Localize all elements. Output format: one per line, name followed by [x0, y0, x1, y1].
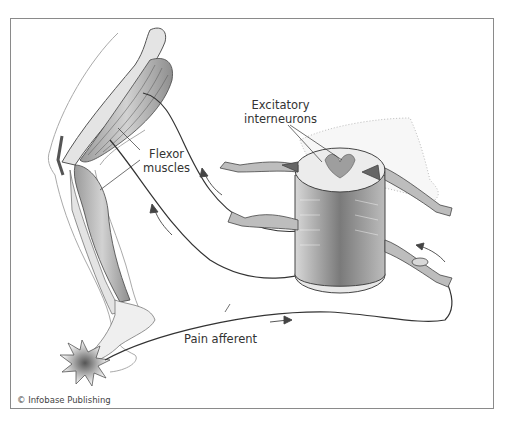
label-excitatory-interneurons: Excitatory interneurons	[244, 98, 317, 126]
label-pain-afferent: Pain afferent	[184, 332, 257, 346]
label-flexor-muscles: Flexor muscles	[143, 147, 190, 175]
patella-tendon	[58, 136, 63, 175]
label-flexor-line2: muscles	[143, 161, 190, 175]
label-excitatory-line1: Excitatory	[244, 98, 317, 112]
label-excitatory-line2: interneurons	[244, 112, 317, 126]
pain-afferent-fiber	[105, 285, 452, 360]
label-flexor-line1: Flexor	[143, 147, 190, 161]
copyright-credit: © Infobase Publishing	[17, 395, 111, 405]
reflex-illustration	[0, 0, 506, 424]
